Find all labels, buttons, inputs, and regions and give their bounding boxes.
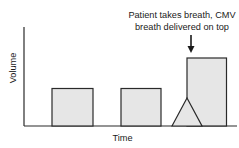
- annotation-line-2: breath delivered on top: [135, 22, 229, 32]
- breath-stacking-diagram: Patient takes breath, CMV breath deliver…: [0, 0, 239, 148]
- annotation-line-1: Patient takes breath, CMV: [128, 10, 236, 20]
- cmv-breath-1: [52, 89, 93, 127]
- arrow-down-icon: [188, 46, 195, 53]
- y-axis-label: Volume: [8, 53, 18, 84]
- cmv-breath-2: [121, 89, 161, 127]
- x-axis-label: Time: [112, 133, 132, 143]
